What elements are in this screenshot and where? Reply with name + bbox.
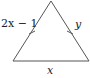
left-side-label: 2x − 1 <box>1 17 37 30</box>
base-label: x <box>47 64 54 77</box>
triangle-diagram: 2x − 1 y x <box>0 0 90 78</box>
triangle <box>13 1 89 61</box>
right-side-label: y <box>74 18 82 31</box>
